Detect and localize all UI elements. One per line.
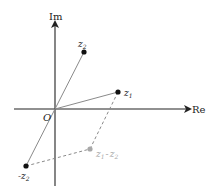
point-z1-minus-z2 [87, 146, 92, 151]
label-z1-minus-z2: z1-z2 [95, 149, 118, 160]
point-neg-z2 [23, 163, 28, 168]
label-neg-z2: -z2 [18, 171, 30, 182]
point-z2 [81, 49, 86, 54]
vector-z2 [55, 52, 84, 109]
re-axis-label: Re [192, 104, 206, 115]
complex-plane-diagram: Im Re O z2 z1 -z2 z1-z2 [0, 0, 211, 189]
point-z1 [115, 89, 120, 94]
dashed-edge-z1-to-diff [90, 92, 118, 149]
im-axis-label: Im [49, 11, 63, 22]
dashed-edge-negz2-to-diff [26, 149, 90, 166]
label-z2: z2 [77, 39, 87, 50]
origin-label: O [43, 112, 51, 123]
vector-z1 [55, 92, 118, 109]
label-z1: z1 [123, 88, 133, 99]
